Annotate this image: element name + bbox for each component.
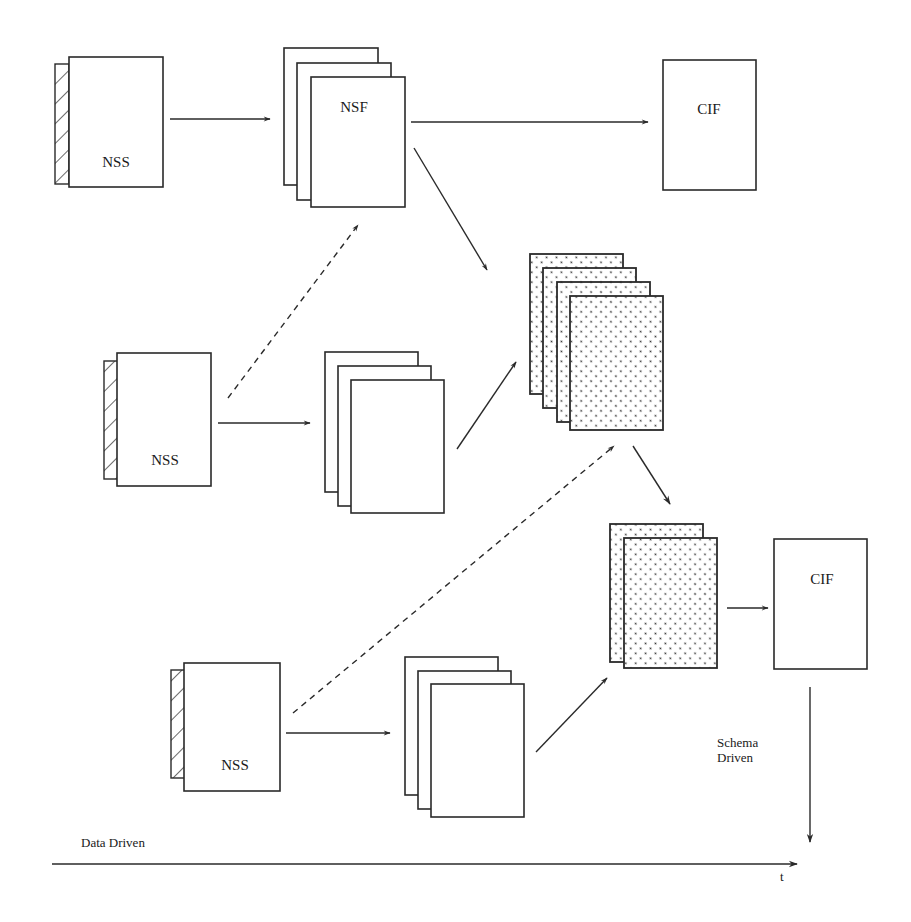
nsf-label: NSF — [340, 99, 368, 115]
nss-label: NSS — [102, 154, 130, 170]
arrow-nsf-to-merge — [414, 148, 487, 270]
nss-label: NSS — [151, 452, 179, 468]
merged-document-stack-bottom — [610, 524, 717, 668]
nss-document-1: NSS — [55, 57, 163, 187]
hatched-spine-icon — [104, 361, 118, 479]
hatched-spine-icon — [55, 64, 69, 184]
time-axis-label: t — [780, 869, 784, 884]
schema-driven-label-line1: Schema — [717, 735, 758, 750]
arrow-merge-top-to-merge-bottom — [633, 446, 670, 504]
arrow-stack3-to-merge-bottom — [536, 678, 607, 752]
document-stack-3 — [405, 657, 524, 817]
document-stack-2 — [325, 352, 444, 513]
merged-document-stack-top — [530, 254, 663, 430]
architecture-diagram: NSS NSF CIF NSS NSS — [0, 0, 911, 922]
nss-label: NSS — [221, 757, 249, 773]
nsf-document-stack: NSF — [284, 48, 405, 207]
cif-label: CIF — [697, 101, 720, 117]
schema-driven-label-line2: Driven — [717, 750, 754, 765]
cif-label: CIF — [810, 571, 833, 587]
cif-document-1: CIF — [663, 60, 756, 190]
data-driven-label: Data Driven — [81, 835, 145, 850]
nss-document-3: NSS — [171, 663, 280, 791]
hatched-spine-icon — [171, 670, 185, 778]
cif-document-2: CIF — [774, 539, 867, 669]
arrow-stack2-to-merge — [457, 362, 516, 449]
nss-document-2: NSS — [104, 353, 211, 486]
